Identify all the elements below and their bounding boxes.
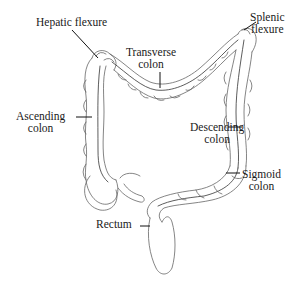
label-descending-line1: Descending (190, 121, 244, 133)
cecum-shape (85, 176, 117, 210)
ascending-colon-shape (85, 58, 118, 204)
label-hepatic-flexure-text: Hepatic flexure (36, 16, 107, 28)
appendix-shape (118, 184, 144, 202)
leader-hepatic (72, 30, 98, 58)
label-hepatic-flexure: Hepatic flexure (36, 16, 107, 28)
label-descending-colon: Descending colon (190, 121, 244, 145)
label-sigmoid-line2: colon (242, 180, 281, 192)
label-rectum: Rectum (96, 218, 132, 230)
label-transverse-line2: colon (126, 58, 176, 70)
label-ascending-colon: Ascending colon (16, 110, 65, 134)
label-rectum-text: Rectum (96, 218, 132, 230)
label-splenic-line1: Splenic (250, 11, 285, 23)
label-descending-line2: colon (190, 133, 244, 145)
label-transverse-line1: Transverse (126, 46, 176, 58)
label-ascending-line2: colon (16, 122, 65, 134)
label-splenic-line2: flexure (250, 23, 285, 35)
colon-anatomy-diagram: Hepatic flexure Splenic flexure Transver… (0, 0, 296, 285)
label-splenic-flexure: Splenic flexure (250, 11, 285, 35)
label-transverse-colon: Transverse colon (126, 46, 176, 70)
label-sigmoid-line1: Sigmoid (242, 168, 281, 180)
rectum-shape (148, 217, 175, 274)
label-ascending-line1: Ascending (16, 110, 65, 122)
colon-illustration (0, 0, 296, 285)
label-sigmoid-colon: Sigmoid colon (242, 168, 281, 192)
